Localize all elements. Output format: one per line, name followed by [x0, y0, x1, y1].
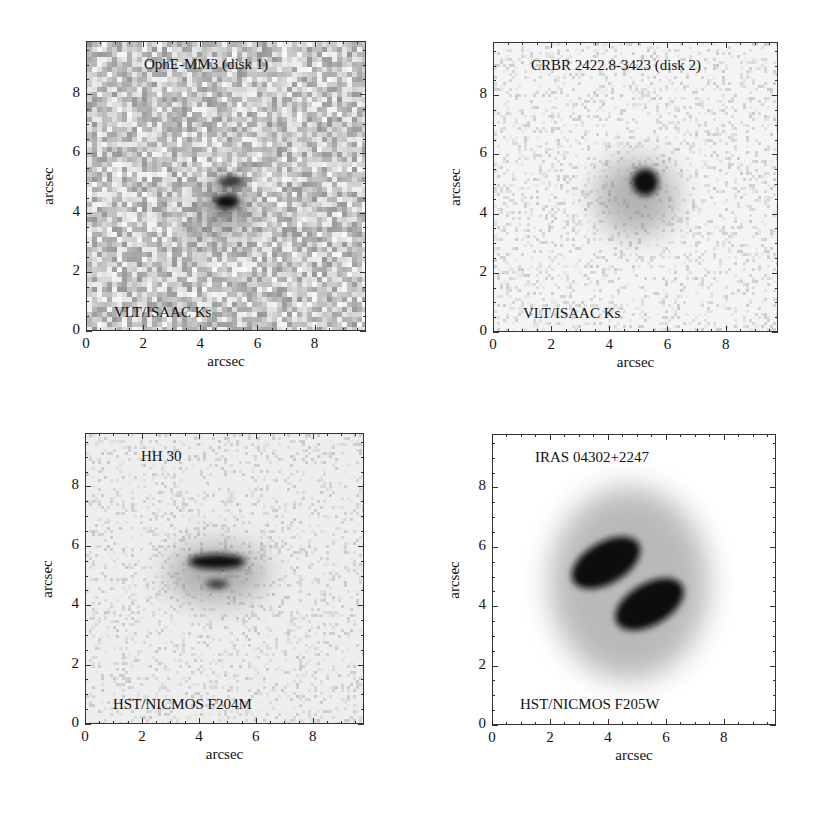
x-tick-mark — [551, 326, 552, 332]
instrument-label: VLT/ISAAC Ks — [114, 304, 211, 321]
x-tick-mark — [724, 719, 725, 725]
y-tick-mark — [85, 694, 88, 695]
y-tick-mark — [773, 517, 776, 518]
y-tick-mark — [85, 709, 88, 710]
y-tick-mark — [492, 606, 498, 607]
y-tick-mark — [363, 139, 366, 140]
y-tick-mark — [775, 302, 778, 303]
x-tick-mark — [566, 42, 567, 45]
y-tick-mark — [492, 532, 495, 533]
x-tick-mark — [637, 722, 638, 725]
object-name-label: OphE-MM3 (disk 1) — [144, 56, 268, 73]
x-tick-mark — [115, 328, 116, 331]
x-tick-mark — [355, 721, 356, 724]
object-name-label: IRAS 04302+2247 — [535, 449, 649, 466]
x-tick-mark — [300, 328, 301, 331]
x-axis-label: arcsec — [207, 353, 244, 370]
x-tick-mark — [579, 434, 580, 437]
y-tick-mark — [772, 273, 778, 274]
y-tick-mark — [85, 442, 88, 443]
y-tick-mark — [773, 473, 776, 474]
y-tick-mark — [85, 635, 88, 636]
x-tick-mark — [185, 721, 186, 724]
y-tick-mark — [85, 665, 91, 666]
x-tick-mark — [256, 718, 257, 724]
x-tick-mark — [199, 433, 200, 439]
y-tick-mark — [492, 443, 495, 444]
x-tick-mark — [341, 433, 342, 436]
y-tick-mark — [775, 288, 778, 289]
x-tick-mark — [270, 721, 271, 724]
y-tick-mark — [773, 458, 776, 459]
y-tick-mark — [363, 183, 366, 184]
x-tick-mark — [651, 434, 652, 437]
y-tick-mark — [86, 50, 89, 51]
emission-feature — [188, 554, 245, 569]
x-tick-mark — [697, 329, 698, 332]
x-tick-mark — [128, 433, 129, 436]
astronomical-image — [493, 435, 776, 725]
x-axis-label: arcsec — [615, 747, 652, 764]
x-tick-mark — [229, 328, 230, 331]
x-tick-mark — [299, 721, 300, 724]
y-tick-mark — [358, 486, 364, 487]
x-tick-mark — [595, 329, 596, 332]
y-tick-mark — [772, 154, 778, 155]
x-tick-mark — [215, 328, 216, 331]
x-tick-mark — [186, 328, 187, 331]
y-tick-mark — [363, 124, 366, 125]
x-tick-mark — [170, 433, 171, 436]
y-tick-label: 0 — [65, 714, 79, 731]
x-tick-mark — [622, 722, 623, 725]
y-tick-mark — [363, 168, 366, 169]
x-tick-mark — [284, 721, 285, 724]
emission-feature — [206, 580, 229, 589]
x-tick-mark — [86, 41, 87, 47]
y-tick-mark — [492, 591, 495, 592]
x-tick-mark — [170, 721, 171, 724]
x-tick-mark — [156, 433, 157, 436]
y-tick-mark — [85, 576, 88, 577]
x-tick-mark — [99, 433, 100, 436]
y-tick-mark — [361, 694, 364, 695]
x-tick-mark — [186, 41, 187, 44]
x-tick-mark — [172, 328, 173, 331]
x-tick-mark — [680, 722, 681, 725]
x-tick-mark — [667, 326, 668, 332]
y-tick-mark — [85, 679, 88, 680]
y-tick-label: 2 — [472, 655, 486, 672]
astronomical-image — [494, 43, 778, 332]
y-tick-mark — [86, 198, 89, 199]
x-tick-mark — [272, 328, 273, 331]
x-tick-mark — [508, 42, 509, 45]
x-tick-mark — [638, 42, 639, 45]
y-tick-mark — [492, 621, 495, 622]
y-tick-mark — [85, 516, 88, 517]
x-tick-mark — [767, 722, 768, 725]
x-tick-mark — [624, 42, 625, 45]
x-tick-label: 6 — [254, 335, 262, 352]
y-tick-mark — [493, 332, 499, 333]
x-tick-mark — [100, 328, 101, 331]
x-tick-mark — [357, 328, 358, 331]
y-tick-mark — [773, 621, 776, 622]
y-tick-mark — [363, 109, 366, 110]
x-tick-mark — [593, 722, 594, 725]
x-tick-label: 8 — [720, 729, 728, 746]
y-tick-mark — [361, 576, 364, 577]
y-tick-mark — [492, 547, 498, 548]
y-tick-mark — [493, 228, 496, 229]
y-tick-mark — [492, 487, 498, 488]
y-tick-mark — [493, 184, 496, 185]
x-tick-mark — [341, 721, 342, 724]
x-tick-label: 4 — [195, 728, 203, 745]
y-tick-mark — [492, 680, 495, 681]
x-tick-mark — [229, 41, 230, 44]
y-tick-mark — [773, 532, 776, 533]
y-tick-mark — [361, 635, 364, 636]
x-tick-mark — [327, 433, 328, 436]
object-name-label: CRBR 2422.8-3423 (disk 2) — [531, 57, 701, 74]
x-tick-mark — [609, 42, 610, 48]
x-tick-mark — [580, 42, 581, 45]
x-tick-label: 6 — [664, 336, 672, 353]
